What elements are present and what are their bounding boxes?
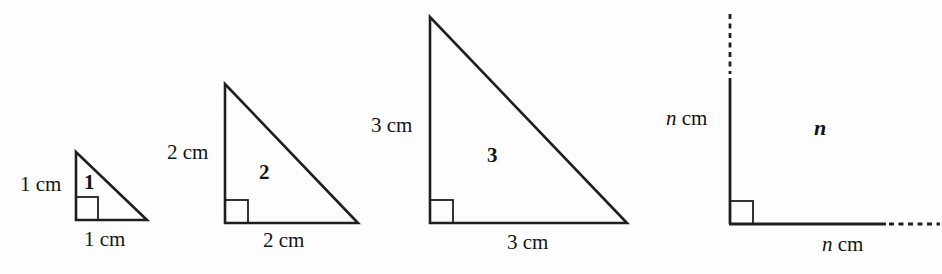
right-angle-marker (730, 201, 753, 224)
triangle-1-number: 1 (84, 172, 95, 193)
figure-n-shape (729, 14, 940, 224)
triangle-3-base-label: 3 cm (507, 232, 548, 253)
triangle-3-number: 3 (487, 145, 498, 166)
figure-n-base-label: n cm (822, 234, 863, 255)
triangle-2-height-label: 2 cm (167, 142, 208, 163)
triangle-2-number: 2 (259, 162, 270, 183)
right-angle-marker (225, 200, 248, 223)
triangle-2-base-label: 2 cm (263, 230, 304, 251)
triangle-3-shape (430, 17, 627, 223)
geometry-layer (0, 0, 942, 274)
triangle-3-height-label: 3 cm (371, 115, 412, 136)
figure-n-number: n (814, 117, 826, 139)
triangle-sequence-diagram: 1 cm 1 1 cm 2 cm 2 2 cm 3 cm 3 3 cm n cm… (0, 0, 942, 274)
triangle-1-base-label: 1 cm (84, 229, 125, 250)
triangle-3-outline (430, 17, 627, 223)
triangle-1-height-label: 1 cm (20, 174, 61, 195)
triangle-2-shape (225, 84, 358, 223)
triangle-2-outline (225, 84, 358, 223)
right-angle-marker (76, 197, 98, 220)
figure-n-height-label: n cm (666, 108, 707, 129)
right-angle-marker (430, 200, 453, 223)
